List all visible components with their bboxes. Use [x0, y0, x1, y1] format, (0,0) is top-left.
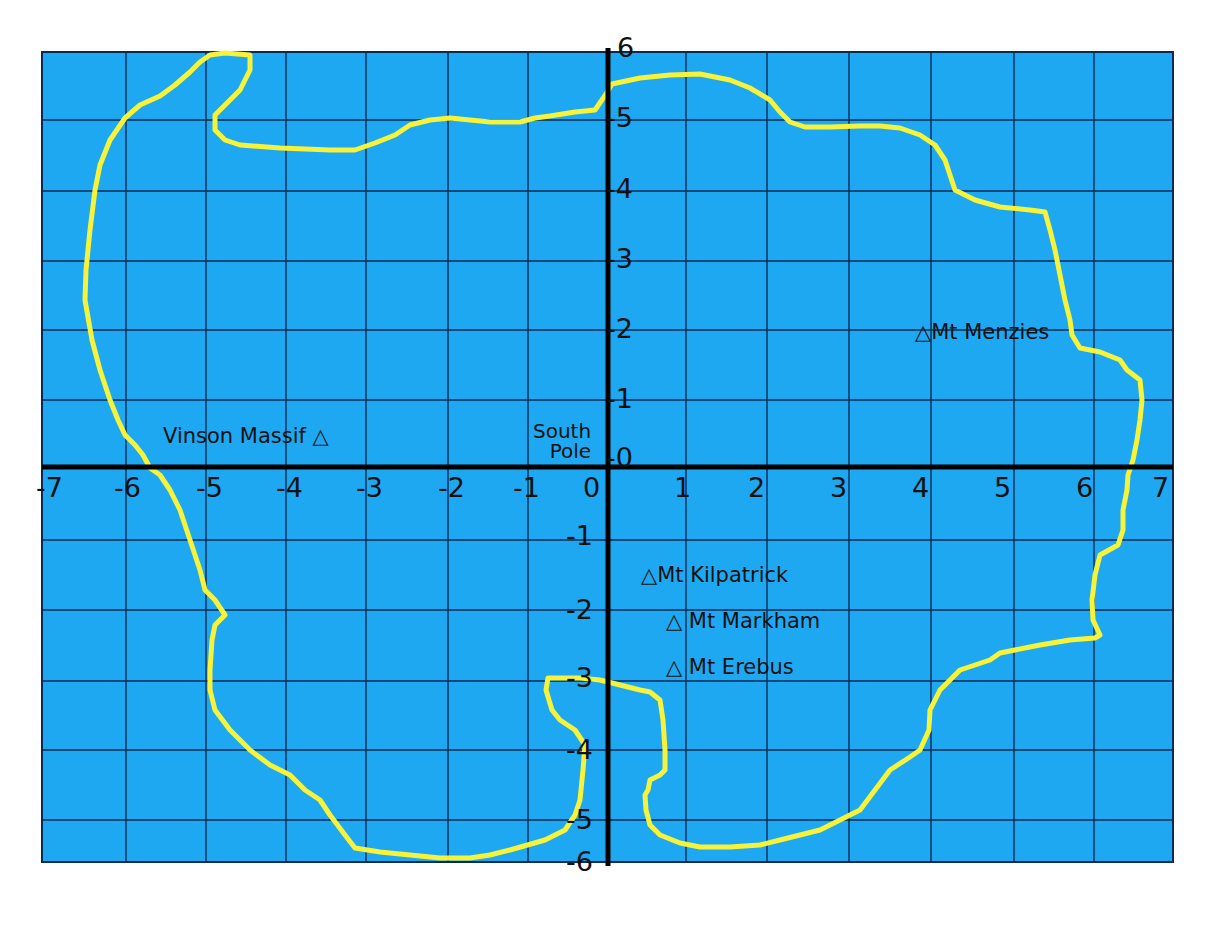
feature-label: Mt Menzies: [931, 320, 1049, 344]
feature-label: Mt Erebus: [689, 655, 794, 679]
x-tick-label: 6: [1076, 474, 1093, 501]
south-pole-line1: South: [533, 421, 591, 441]
mountain-triangle-icon: △: [641, 563, 657, 587]
y-tick-label: 6: [617, 34, 634, 61]
x-tick-label: -2: [438, 474, 465, 501]
x-tick-label: 1: [674, 474, 691, 501]
feature-label: Mt Kilpatrick: [657, 563, 788, 587]
y-tick-label: -4: [606, 175, 633, 202]
feature-mt-erebus: △ Mt Erebus: [666, 657, 794, 678]
x-tick-label: -1: [513, 474, 540, 501]
mountain-triangle-icon: △: [666, 609, 682, 633]
feature-vinson-massif: Vinson Massif △: [163, 426, 329, 447]
x-tick-label: -6: [114, 474, 141, 501]
feature-label: Mt Markham: [689, 609, 820, 633]
y-tick-label: -1: [606, 385, 633, 412]
mountain-triangle-icon: △: [313, 424, 329, 448]
y-tick-label: -1: [566, 522, 593, 549]
mountain-triangle-icon: △: [915, 320, 931, 344]
feature-mt-markham: △ Mt Markham: [666, 611, 820, 632]
x-tick-label: 2: [748, 474, 765, 501]
feature-mt-menzies: △Mt Menzies: [915, 322, 1049, 343]
antarctica-grid-map: [0, 0, 1206, 938]
x-tick-label: -3: [356, 474, 383, 501]
x-tick-label: -7: [36, 474, 63, 501]
y-tick-label: -3: [566, 664, 593, 691]
x-tick-label: 4: [912, 474, 929, 501]
y-tick-label: -5: [606, 104, 633, 131]
x-tick-label: 3: [830, 474, 847, 501]
feature-label: Vinson Massif: [163, 424, 306, 448]
x-tick-label: 7: [1152, 474, 1169, 501]
y-tick-label: -2: [566, 596, 593, 623]
y-tick-label: -4: [566, 736, 593, 763]
y-tick-label: -3: [606, 245, 633, 272]
mountain-triangle-icon: △: [666, 655, 682, 679]
y-tick-label: -0: [606, 444, 633, 471]
y-tick-label: -5: [566, 806, 593, 833]
x-tick-label: -5: [196, 474, 223, 501]
y-tick-label: -2: [606, 315, 633, 342]
south-pole-label: South Pole: [533, 421, 591, 461]
x-tick-label: -4: [276, 474, 303, 501]
x-tick-label: 0: [583, 474, 600, 501]
south-pole-line2: Pole: [533, 441, 591, 461]
y-tick-label: -6: [566, 848, 593, 875]
x-tick-label: 5: [994, 474, 1011, 501]
feature-mt-kilpatrick: △Mt Kilpatrick: [641, 565, 788, 586]
